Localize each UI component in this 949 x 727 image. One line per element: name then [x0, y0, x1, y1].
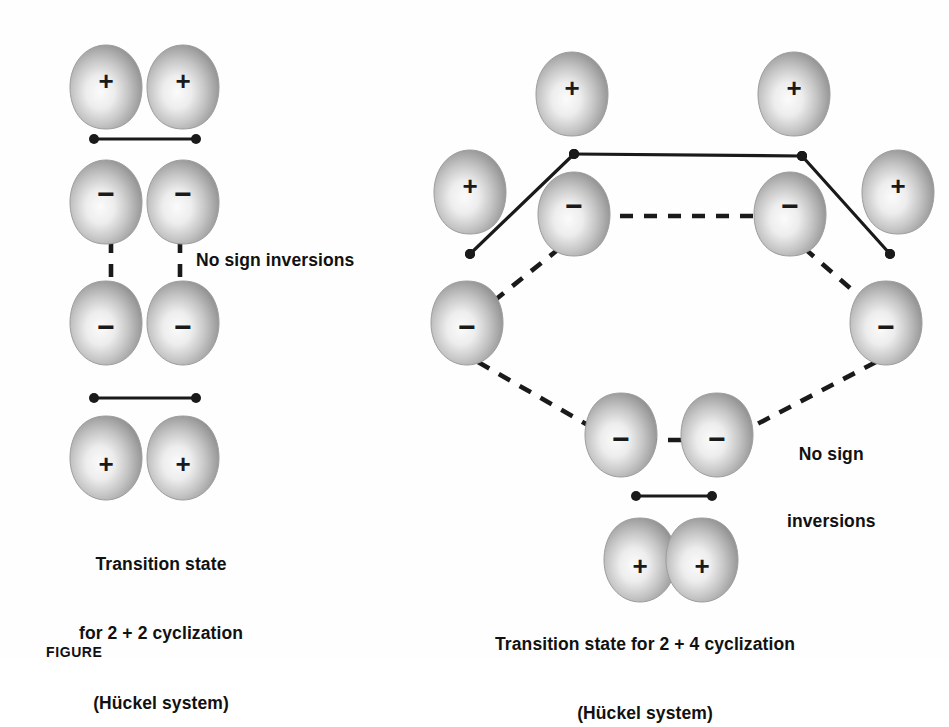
orbital-minus-sign: −	[565, 189, 583, 222]
right-ring-vertex-dot	[797, 151, 807, 161]
orbital-minus-sign: −	[97, 177, 115, 210]
orbital-plus-sign: +	[175, 449, 190, 479]
left-orbital-lobe: +	[70, 416, 142, 500]
orbital-minus-sign: −	[458, 310, 476, 343]
right-caption-line2: (Hückel system)	[400, 702, 890, 725]
right-caption: Transition state for 2 + 4 cyclization (…	[400, 586, 890, 727]
right-bond-endpoint-dot	[631, 491, 641, 501]
left-orbital-lobe: −	[70, 281, 142, 365]
orbital-plus-sign: +	[694, 551, 709, 581]
right-annotation-line1: No sign	[787, 443, 876, 465]
orbital-plus-sign: +	[786, 73, 801, 103]
right-caption-line1: Transition state for 2 + 4 cyclization	[400, 633, 890, 656]
orbital-plus-sign: +	[890, 171, 905, 201]
left-orbital-lobe: −	[70, 160, 142, 244]
right-orbital-lobe: −	[585, 393, 657, 477]
orbital-minus-sign: −	[174, 177, 192, 210]
right-orbital-lobe: −	[850, 281, 922, 365]
right-orbital-lobe: −	[681, 393, 753, 477]
right-ring-vertex-dot	[465, 249, 475, 259]
left-no-sign-inversions-label: No sign inversions	[196, 250, 354, 271]
left-bond-endpoint-dot	[89, 393, 99, 403]
left-orbital-lobe: +	[147, 45, 219, 129]
left-bond-endpoint-dot	[191, 393, 201, 403]
right-orbital-lobe: +	[862, 150, 934, 234]
right-orbital-lobe: +	[758, 52, 830, 136]
right-bond-endpoint-dot	[707, 491, 717, 501]
right-annotation-line2: inversions	[787, 510, 876, 532]
right-bond-solid	[574, 154, 802, 156]
right-orbital-lobe: −	[538, 172, 610, 256]
orbital-minus-sign: −	[612, 422, 630, 455]
orbital-plus-sign: +	[564, 73, 579, 103]
orbital-plus-sign: +	[98, 449, 113, 479]
orbital-plus-sign: +	[632, 551, 647, 581]
orbital-minus-sign: −	[708, 422, 726, 455]
right-no-sign-inversions-label: No sign inversions	[787, 398, 876, 577]
orbital-minus-sign: −	[97, 310, 115, 343]
right-orbital-lobe: +	[536, 52, 608, 136]
left-orbital-lobe: −	[147, 281, 219, 365]
orbital-plus-sign: +	[98, 66, 113, 96]
orbital-minus-sign: −	[877, 310, 895, 343]
right-orbital-lobe: −	[431, 281, 503, 365]
left-caption-line1: Transition state	[18, 553, 304, 576]
left-orbital-lobe: +	[70, 45, 142, 129]
left-bond-endpoint-dot	[191, 134, 201, 144]
orbital-plus-sign: +	[175, 66, 190, 96]
right-bond-dashed	[478, 362, 600, 432]
orbital-minus-sign: −	[781, 189, 799, 222]
left-caption-line2: for 2 + 2 cyclization	[18, 622, 304, 645]
left-orbital-lobe: +	[147, 416, 219, 500]
left-caption-line3: (Hückel system)	[18, 692, 304, 715]
left-caption: Transition state for 2 + 2 cyclization (…	[18, 506, 304, 727]
right-orbital-lobe: +	[434, 150, 506, 234]
left-bond-endpoint-dot	[89, 134, 99, 144]
right-orbital-lobe: −	[754, 172, 826, 256]
right-ring-vertex-dot	[569, 149, 579, 159]
right-ring-vertex-dot	[885, 249, 895, 259]
orbital-plus-sign: +	[462, 171, 477, 201]
orbital-minus-sign: −	[174, 310, 192, 343]
figure-label: FIGURE	[46, 644, 103, 660]
left-orbital-lobe: −	[147, 160, 219, 244]
